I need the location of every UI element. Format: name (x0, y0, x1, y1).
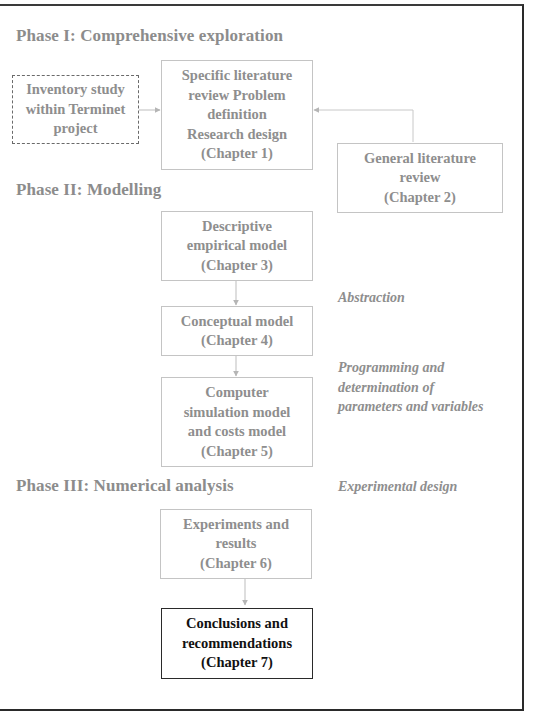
chapter4-box: Conceptual model (Chapter 4) (161, 306, 313, 356)
box-line: results (183, 534, 289, 554)
box-line: empirical model (187, 236, 287, 256)
box-line: Descriptive (187, 217, 287, 237)
box-line: General literature (364, 149, 476, 169)
chapter3-box: Descriptive empirical model (Chapter 3) (161, 211, 313, 281)
chapter5-box: Computer simulation model and costs mode… (161, 377, 313, 467)
annotation-programming: Programming and determination of paramet… (338, 358, 483, 417)
annotation-experimental-design: Experimental design (338, 477, 457, 497)
box-line: within Terminet (26, 100, 126, 120)
box-line: Conclusions and (182, 614, 292, 634)
box-line: (Chapter 4) (181, 331, 293, 351)
box-line: (Chapter 5) (184, 442, 291, 462)
phase1-heading: Phase I: Comprehensive exploration (16, 26, 283, 46)
box-line: Experiments and (183, 515, 289, 535)
box-line: Conceptual model (181, 312, 293, 332)
box-line: Computer (184, 383, 291, 403)
phase2-heading: Phase II: Modelling (16, 180, 161, 200)
box-line: (Chapter 7) (182, 653, 292, 673)
annotation-line: parameters and variables (338, 397, 483, 417)
box-line: review (364, 168, 476, 188)
box-line: recommendations (182, 634, 292, 654)
annotation-line: Programming and (338, 358, 483, 378)
annotation-abstraction: Abstraction (338, 288, 405, 308)
box-line: definition (182, 105, 292, 125)
phase3-heading: Phase III: Numerical analysis (16, 476, 234, 496)
box-line: (Chapter 6) (183, 554, 289, 574)
chapter1-box: Specific literature review Problem defin… (161, 60, 313, 170)
box-line: (Chapter 3) (187, 256, 287, 276)
box-line: review Problem (182, 86, 292, 106)
box-line: Research design (182, 125, 292, 145)
inventory-study-box: Inventory study within Terminet project (12, 75, 139, 144)
chapter6-box: Experiments and results (Chapter 6) (160, 509, 312, 579)
box-line: (Chapter 2) (364, 188, 476, 208)
box-line: Specific literature (182, 66, 292, 86)
box-line: (Chapter 1) (182, 144, 292, 164)
box-line: project (26, 119, 126, 139)
annotation-line: determination of (338, 378, 483, 398)
chapter2-box: General literature review (Chapter 2) (337, 143, 503, 213)
box-line: Inventory study (26, 80, 126, 100)
chapter7-box: Conclusions and recommendations (Chapter… (161, 608, 313, 679)
box-line: simulation model (184, 403, 291, 423)
box-line: and costs model (184, 422, 291, 442)
